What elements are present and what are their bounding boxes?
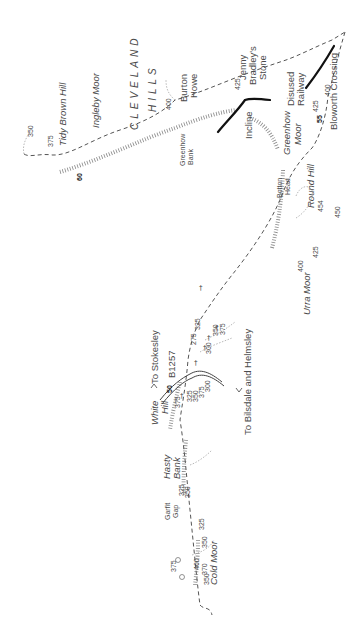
height-400: 400 [165, 98, 172, 110]
label-tidy-brown-hill: Tidy Brown Hill [57, 82, 68, 146]
label-urra-moor: Urra Moor [301, 271, 312, 315]
route-marker-50: 50 [166, 385, 173, 393]
label-to-bilsdale-and-helmsley[interactable]: To Bilsdale and Helmsley [242, 329, 253, 435]
svg-text:†: † [180, 392, 184, 400]
svg-text:†: † [199, 284, 203, 292]
label-greenhow-moor: Greenhow [281, 110, 292, 155]
label-garfit: Garfit [164, 503, 171, 520]
label-incline: Incline [243, 112, 254, 139]
height-400-urra: 400 [297, 260, 304, 272]
route-map: Tidy Brown Hill Ingleby Moor CLEVELAND H… [0, 0, 361, 631]
label-hill: Hill [159, 400, 170, 414]
height-350: 350 [27, 125, 34, 137]
height-370-cold-moor: 370 [201, 563, 208, 575]
height-400-bloworth: 400 [324, 84, 331, 96]
label-stone: Stone [257, 55, 268, 80]
label-head: Head [284, 178, 291, 195]
label-ingleby-moor: Ingleby Moor [90, 72, 101, 128]
svg-text:†: † [215, 324, 219, 332]
height-454: 454 [317, 200, 324, 212]
label-to-stokesley[interactable]: To Stokesley [149, 330, 160, 384]
height-400-cold-moor: 400 [193, 558, 200, 570]
escarpment-hachure-north [60, 110, 236, 172]
height-300-white-hill: 300 [204, 380, 211, 392]
label-b1257[interactable]: B1257 [166, 351, 177, 378]
label-cleveland: CLEVELAND [129, 35, 140, 130]
height-375-b1257: 375 [219, 323, 226, 335]
svg-text:†: † [203, 344, 207, 352]
height-350-cold-moor: 350 [203, 573, 210, 585]
contour-hasty [190, 450, 212, 465]
label-round-hill: Round Hill [305, 163, 316, 208]
route-marker-60: 60 [76, 173, 83, 181]
contour-400-north [166, 80, 175, 100]
route-path-south-end [200, 605, 212, 615]
height-325-b1257: 325 [194, 318, 201, 330]
label-gap: Gap [172, 505, 180, 518]
height-375: 375 [47, 135, 54, 147]
height-350-hasty: 350 [184, 486, 191, 498]
height-425: 425 [234, 78, 241, 90]
label-botton: Botton [276, 178, 283, 198]
escarpment-hachure-greenhow-moor [250, 118, 278, 150]
label-howe: Howe [188, 74, 199, 98]
height-375-cold-moor: 375 [170, 560, 177, 572]
label-hasty-bank: Bank [171, 456, 182, 479]
height-275: 275 [190, 333, 197, 345]
height-425-round-hill: 425 [312, 246, 319, 258]
route-path[interactable] [24, 32, 345, 605]
height-425-bloworth: 425 [312, 100, 319, 112]
label-hills: HILLS [147, 64, 158, 112]
height-450: 450 [334, 206, 341, 218]
svg-text:†: † [194, 359, 198, 367]
height-325-garfit: 325 [198, 518, 205, 530]
label-railway: Railway [295, 72, 306, 106]
height-350-garfit: 350 [201, 536, 208, 548]
label-moor: Moor [292, 123, 303, 145]
label-greenhow: Greenhow [179, 133, 186, 166]
label-bank: Bank [187, 149, 194, 165]
route-marker-55: 55 [316, 115, 323, 123]
svg-text:†: † [207, 334, 211, 342]
